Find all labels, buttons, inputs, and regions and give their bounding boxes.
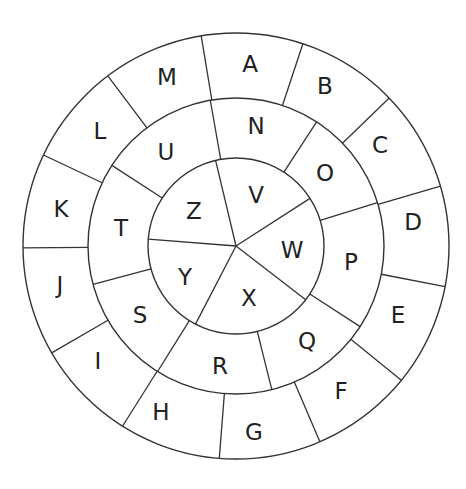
outer-ring-divider	[351, 339, 401, 380]
outer-ring-divider	[381, 274, 445, 286]
middle-ring-divider	[320, 203, 377, 221]
letter-l: L	[94, 118, 107, 144]
letter-q: Q	[298, 328, 316, 354]
outer-ring-divider	[282, 44, 302, 106]
letter-n: N	[247, 113, 264, 139]
letter-i: I	[95, 348, 102, 374]
middle-ring-divider	[112, 165, 162, 198]
outer-ring-dividers	[23, 36, 445, 458]
letter-m: M	[157, 64, 177, 90]
letter-y: Y	[177, 264, 193, 290]
letter-h: H	[152, 399, 169, 425]
letter-c: C	[372, 132, 388, 158]
middle-ring-divider	[257, 331, 272, 389]
letter-u: U	[158, 139, 175, 165]
inner-ring-divider	[148, 239, 236, 246]
inner-ring-divider	[196, 246, 236, 324]
outer-ring-divider	[201, 36, 212, 100]
middle-ring-divider	[210, 100, 220, 159]
letter-b: B	[317, 73, 333, 99]
letter-g: G	[245, 419, 263, 445]
letter-r: R	[212, 353, 228, 379]
inner-ring-divider	[216, 160, 236, 246]
middle-ring-divider	[158, 321, 190, 372]
middle-ring-divider	[93, 269, 151, 285]
letter-z: Z	[186, 198, 202, 224]
letter-o: O	[316, 160, 334, 186]
letter-v: V	[248, 182, 264, 208]
letter-w: W	[281, 237, 304, 263]
middle-ring-divider	[310, 294, 360, 327]
letter-a: A	[242, 51, 258, 77]
letter-wheel-diagram: ABCDEFGHIJKLM NOPQRSTU VWXYZ	[0, 0, 466, 489]
letter-p: P	[344, 249, 358, 275]
outer-ring-divider	[378, 186, 440, 204]
middle-ring-divider	[284, 122, 317, 172]
letter-j: J	[55, 272, 64, 298]
outer-ring-divider	[108, 76, 147, 128]
outer-ring-divider	[294, 382, 320, 442]
inner-ring-letters: VWXYZ	[177, 182, 303, 311]
letter-k: K	[53, 196, 69, 222]
letter-e: E	[391, 302, 406, 328]
letter-d: D	[404, 209, 422, 235]
letter-t: T	[113, 215, 129, 241]
outer-ring-divider	[219, 394, 224, 459]
outer-ring-divider	[23, 247, 88, 248]
letter-s: S	[133, 302, 148, 328]
letter-f: F	[334, 378, 347, 404]
outer-ring-divider	[43, 155, 102, 183]
letter-x: X	[241, 285, 257, 311]
